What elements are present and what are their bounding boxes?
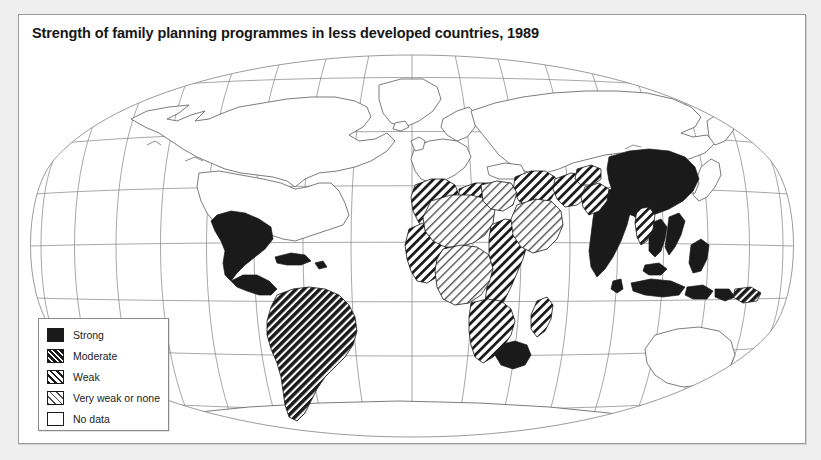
region-new-zealand [741,375,755,407]
page-title: Strength of family planning programmes i… [32,25,539,41]
legend-label-strong: Strong [73,329,104,341]
figure-root: Strength of family planning programmes i… [0,0,821,460]
legend-swatch-moderate [47,349,64,363]
legend-label-weak: Weak [73,371,100,383]
legend-swatch-very-weak [47,391,64,405]
legend-item-very-weak: Very weak or none [47,387,168,408]
legend-item-no-data: No data [47,408,168,429]
legend-item-strong: Strong [47,324,168,345]
legend-swatch-no-data [47,412,64,426]
legend-swatch-weak [47,370,64,384]
legend-swatch-strong [47,328,64,342]
legend-label-no-data: No data [73,413,110,425]
map-legend: Strong Moderate Weak Very weak or none N… [38,318,169,431]
legend-item-weak: Weak [47,366,168,387]
legend-label-moderate: Moderate [73,350,117,362]
region-tasmania [701,389,713,399]
legend-label-very-weak: Very weak or none [73,392,160,404]
legend-item-moderate: Moderate [47,345,168,366]
figure-panel: Strength of family planning programmes i… [18,14,806,444]
